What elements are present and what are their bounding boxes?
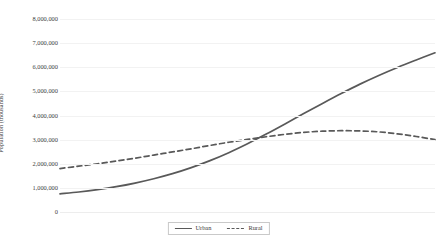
legend-swatch-dashed bbox=[227, 228, 244, 229]
y-axis-tick-label: 0 bbox=[14, 209, 58, 215]
legend-item-urban[interactable]: Urban bbox=[174, 225, 211, 231]
legend-item-rural[interactable]: Rural bbox=[227, 225, 262, 231]
y-axis-tick-label: 3,000,000 bbox=[14, 136, 58, 142]
series-line-urban bbox=[60, 53, 435, 194]
y-axis-tick-labels: 8,000,0007,000,0006,000,0005,000,0004,00… bbox=[12, 0, 58, 246]
gridline bbox=[60, 164, 435, 165]
y-axis-tick-label: 8,000,000 bbox=[14, 16, 58, 22]
y-axis-tick-label: 1,000,000 bbox=[14, 185, 58, 191]
plot-area bbox=[60, 19, 435, 212]
gridline bbox=[60, 67, 435, 68]
y-axis-tick-label: 4,000,000 bbox=[14, 112, 58, 118]
gridline bbox=[60, 91, 435, 92]
y-axis-tick-label: 2,000,000 bbox=[14, 161, 58, 167]
gridline bbox=[60, 212, 435, 213]
gridline bbox=[60, 19, 435, 20]
legend-swatch-solid bbox=[174, 228, 191, 229]
gridline bbox=[60, 116, 435, 117]
legend-label: Rural bbox=[248, 225, 262, 231]
gridline bbox=[60, 140, 435, 141]
y-axis-tick-label: 7,000,000 bbox=[14, 40, 58, 46]
y-axis-tick-label: 6,000,000 bbox=[14, 64, 58, 70]
y-axis-tick-label: 5,000,000 bbox=[14, 88, 58, 94]
line-chart: Population (thousands) 8,000,0007,000,00… bbox=[0, 0, 437, 246]
legend-label: Urban bbox=[195, 225, 211, 231]
gridline bbox=[60, 43, 435, 44]
chart-legend: UrbanRural bbox=[167, 222, 269, 235]
gridline bbox=[60, 188, 435, 189]
